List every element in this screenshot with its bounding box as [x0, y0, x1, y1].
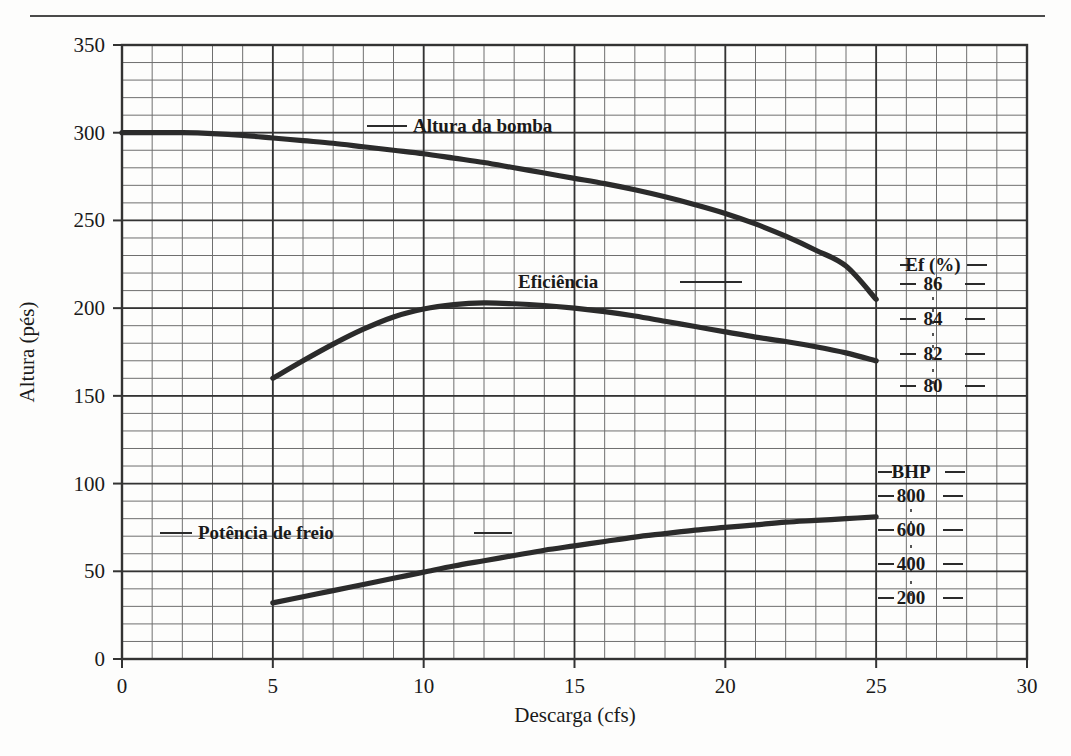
x-tick-label: 25: [866, 674, 887, 698]
efficiency-axis-tick-label: 86: [924, 273, 943, 294]
figure-page: 051015202530 050100150200250300350 86848…: [0, 0, 1071, 756]
efficiency-axis-title: Ef (%): [905, 254, 960, 276]
pump-performance-chart: 051015202530 050100150200250300350 86848…: [0, 0, 1071, 756]
y-tick-label: 50: [84, 559, 105, 583]
x-tick-label: 5: [268, 674, 279, 698]
y-tick-label: 350: [74, 33, 106, 57]
y-tick-label: 100: [74, 472, 106, 496]
y-axis-title: Altura (pés): [15, 302, 39, 403]
bhp-axis-tick-label: 800: [897, 485, 926, 506]
y-tick-label: 300: [74, 121, 106, 145]
secondary-axes: 86848280800600400200: [878, 265, 987, 608]
bhp-axis-tick-label: 600: [897, 519, 926, 540]
y-tick-label: 200: [74, 296, 106, 320]
annotation-altura-da-bomba: Altura da bomba: [413, 115, 553, 136]
annotation-potencia-de-freio: Potência de freio: [198, 522, 334, 543]
x-tick-label: 10: [413, 674, 434, 698]
x-tick-label: 15: [564, 674, 585, 698]
curve-0: [122, 133, 876, 300]
annotation-eficiencia: Eficiência: [518, 271, 599, 292]
efficiency-axis-tick-label: 80: [924, 375, 943, 396]
bhp-axis-tick-label: 200: [897, 587, 926, 608]
y-tick-label: 150: [74, 384, 106, 408]
efficiency-axis-tick-label: 82: [924, 343, 943, 364]
y-axis-ticks: [113, 45, 122, 659]
x-tick-label: 30: [1017, 674, 1038, 698]
x-tick-label: 20: [715, 674, 736, 698]
y-tick-label: 0: [95, 647, 106, 671]
bhp-axis-title: BHP: [891, 461, 930, 482]
efficiency-axis-tick-label: 84: [924, 308, 944, 329]
x-axis-title: Descarga (cfs): [514, 703, 635, 727]
x-axis-tick-labels: 051015202530: [117, 674, 1038, 698]
x-axis-ticks: [122, 659, 1027, 668]
y-axis-tick-labels: 050100150200250300350: [74, 33, 106, 671]
bhp-axis-tick-label: 400: [897, 553, 926, 574]
x-tick-label: 0: [117, 674, 128, 698]
annotation-leaders: [160, 126, 742, 533]
y-tick-label: 250: [74, 208, 106, 232]
